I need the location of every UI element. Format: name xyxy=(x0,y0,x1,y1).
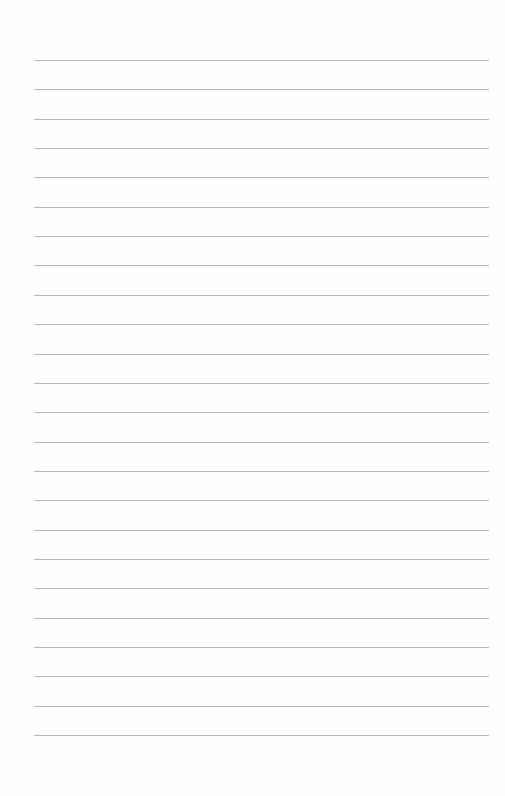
ruled-line xyxy=(34,119,489,120)
ruled-line xyxy=(34,265,489,266)
ruled-line xyxy=(34,324,489,325)
ruled-line xyxy=(34,530,489,531)
ruled-line xyxy=(34,236,489,237)
ruled-line xyxy=(34,500,489,501)
ruled-line xyxy=(34,383,489,384)
ruled-line xyxy=(34,295,489,296)
ruled-line xyxy=(34,647,489,648)
ruled-line xyxy=(34,148,489,149)
lined-paper-page xyxy=(0,0,505,796)
ruled-line xyxy=(34,89,489,90)
ruled-line xyxy=(34,676,489,677)
ruled-line xyxy=(34,177,489,178)
ruled-line xyxy=(34,735,489,736)
ruled-line xyxy=(34,588,489,589)
ruled-line xyxy=(34,412,489,413)
ruled-line xyxy=(34,442,489,443)
ruled-line xyxy=(34,471,489,472)
ruled-line xyxy=(34,60,489,61)
ruled-line xyxy=(34,559,489,560)
ruled-line xyxy=(34,706,489,707)
ruled-line xyxy=(34,618,489,619)
ruled-line xyxy=(34,354,489,355)
ruled-line xyxy=(34,207,489,208)
